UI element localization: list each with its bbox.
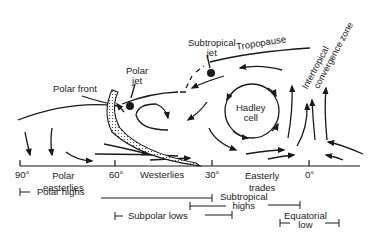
polar-highs-label: Polar highs bbox=[37, 187, 85, 197]
label-line: highs bbox=[220, 201, 268, 210]
subtropical-jet-dot bbox=[207, 69, 215, 77]
label-line: Polar bbox=[43, 170, 84, 182]
subtropical-jet-label: Subtropical jet bbox=[188, 38, 236, 58]
equatorial-low-label: Equatorial low bbox=[284, 211, 327, 229]
tick-60: 60° bbox=[109, 170, 123, 180]
subpolar-lows-label: Subpolar lows bbox=[128, 211, 188, 221]
label-line: cell bbox=[236, 113, 266, 123]
polar-front-label: Polar front bbox=[53, 84, 97, 94]
circulation-diagram bbox=[0, 0, 373, 237]
tick-0: 0° bbox=[305, 170, 314, 180]
tick-90: 90° bbox=[15, 170, 29, 180]
label-line: jet bbox=[126, 76, 148, 86]
label-line: low bbox=[284, 220, 327, 229]
tick-30: 30° bbox=[205, 170, 219, 180]
hadley-cell-label: Hadley cell bbox=[236, 103, 266, 123]
label-line: jet bbox=[188, 48, 236, 58]
polar-jet-dot bbox=[126, 102, 134, 110]
westerlies-label: Westerlies bbox=[140, 170, 184, 180]
subtropical-highs-label: Subtropical highs bbox=[220, 192, 268, 210]
subtropical-jet-dashes bbox=[186, 66, 204, 88]
polar-front-boundary bbox=[18, 105, 118, 120]
label-line: Easterly bbox=[245, 170, 279, 182]
polar-jet-label: Polar jet bbox=[126, 66, 148, 86]
